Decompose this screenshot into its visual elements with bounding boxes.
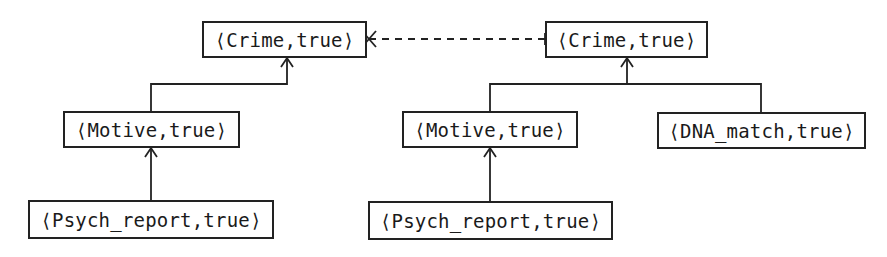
edge-motive-left-to-crime-left <box>151 58 293 111</box>
edge-psych-left-to-motive-left <box>145 148 157 200</box>
node-motive-left: ⟨Motive,true⟩ <box>63 111 240 148</box>
node-psych-report-right: ⟨Psych_report,true⟩ <box>368 201 613 240</box>
edge-children-to-crime-right <box>490 58 761 112</box>
node-motive-right: ⟨Motive,true⟩ <box>402 111 578 148</box>
node-crime-right: ⟨Crime,true⟩ <box>545 21 708 58</box>
node-dna-match: ⟨DNA_match,true⟩ <box>657 112 866 149</box>
node-psych-report-left: ⟨Psych_report,true⟩ <box>28 200 274 239</box>
node-crime-left: ⟨Crime,true⟩ <box>202 21 367 58</box>
edge-psych-right-to-motive-right <box>484 148 496 201</box>
diagram-canvas: ⟨Crime,true⟩ ⟨Crime,true⟩ ⟨Motive,true⟩ … <box>0 0 887 257</box>
attack-edge <box>362 31 545 47</box>
